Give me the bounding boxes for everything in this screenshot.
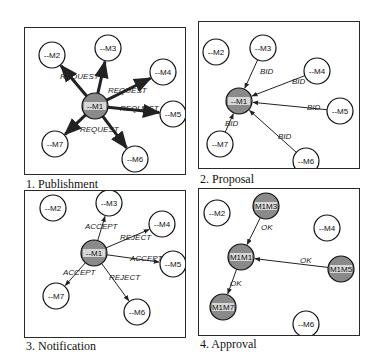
edge-m3-m1-arrow xyxy=(245,60,258,88)
approval-panel: OKOKOKM1M1--M2M1M3--M4M1M5M1M7--M6 xyxy=(198,188,360,336)
edge-label: OK xyxy=(261,223,273,232)
edge-label: ACCEPT xyxy=(62,268,97,277)
node-m7: --M7 xyxy=(207,131,233,157)
edge-label: BID xyxy=(260,67,274,76)
edge-label: REJECT xyxy=(109,273,141,282)
node-label: --M4 xyxy=(319,224,336,233)
edge-label: ACCEPT xyxy=(129,254,164,263)
edge-label: OK xyxy=(230,279,242,288)
node-label: --M3 xyxy=(101,199,118,208)
publishment-panel: REQUESTREQUESTREQUESTREQUEST--M1--M2--M3… xyxy=(24,27,186,175)
edge-label: REJECT xyxy=(120,233,152,242)
diagram-canvas: REQUESTREQUESTREQUESTREQUEST--M1--M2--M3… xyxy=(25,28,185,174)
node-m5: --M5 xyxy=(160,251,185,277)
diagram-canvas: ACCEPTREJECTACCEPTACCEPTREJECT--M1--M2--… xyxy=(25,191,185,337)
node-label: --M4 xyxy=(154,220,171,229)
edge-label: OK xyxy=(300,256,312,265)
edge-label: BID xyxy=(225,119,239,128)
node-label: --M6 xyxy=(127,155,144,164)
node-m1: --M1 xyxy=(81,240,107,266)
node-m2: --M2 xyxy=(39,42,65,68)
node-label: M1M3 xyxy=(255,202,278,211)
proposal-caption: 2. Proposal xyxy=(200,172,254,187)
node-m4: --M4 xyxy=(314,215,340,241)
edge-label: BID xyxy=(278,132,292,141)
node-m2: --M2 xyxy=(203,39,229,65)
edge-label: BID xyxy=(307,103,321,112)
node-m6: --M6 xyxy=(293,148,319,168)
edge-m5-m1-arrow xyxy=(255,259,328,268)
node-m7: M1M7 xyxy=(210,294,236,320)
node-label: --M6 xyxy=(298,157,315,166)
node-m5: M1M5 xyxy=(328,256,354,282)
node-m3: M1M3 xyxy=(253,193,279,219)
edge-label: REQUEST xyxy=(60,72,100,81)
node-m5: --M5 xyxy=(160,101,185,127)
notification-panel: ACCEPTREJECTACCEPTACCEPTREJECT--M1--M2--… xyxy=(24,190,186,338)
node-m4: --M4 xyxy=(304,58,330,84)
node-m2: --M2 xyxy=(40,195,66,221)
node-label: --M1 xyxy=(231,97,248,106)
node-m4: --M4 xyxy=(150,59,176,85)
edge-label: REQUEST xyxy=(108,86,148,95)
edge-m3-m1-arrow xyxy=(247,218,260,245)
node-m7: --M7 xyxy=(43,283,69,309)
node-label: --M5 xyxy=(332,107,349,116)
node-label: --M1 xyxy=(87,102,104,111)
diagram-canvas: BIDBIDBIDBIDBID--M1--M2--M3--M4--M5--M7-… xyxy=(199,22,359,168)
node-label: --M5 xyxy=(165,110,182,119)
node-m2: --M2 xyxy=(204,200,230,226)
node-label: --M3 xyxy=(255,44,272,53)
diagram-canvas: OKOKOKM1M1--M2M1M3--M4M1M5M1M7--M6 xyxy=(199,189,359,335)
node-label: M1M5 xyxy=(330,265,353,274)
node-label: --M6 xyxy=(298,320,315,329)
node-label: --M2 xyxy=(45,204,62,213)
edge-m1-m6-arrow xyxy=(102,264,129,301)
node-m3: --M3 xyxy=(250,35,276,61)
node-label: --M3 xyxy=(100,44,117,53)
node-label: --M7 xyxy=(212,140,229,149)
node-m3: --M3 xyxy=(96,191,122,216)
node-label: --M6 xyxy=(129,308,146,317)
node-label: --M4 xyxy=(309,67,326,76)
edge-label: REQUEST xyxy=(120,104,160,113)
node-m1: --M1 xyxy=(82,93,108,119)
node-label: --M7 xyxy=(48,292,65,301)
edge-label: ACCEPT xyxy=(84,222,119,231)
node-label: --M2 xyxy=(209,209,226,218)
node-m5: --M5 xyxy=(327,98,353,124)
node-label: --M4 xyxy=(155,68,172,77)
node-label: --M2 xyxy=(208,48,225,57)
proposal-panel: BIDBIDBIDBIDBID--M1--M2--M3--M4--M5--M7-… xyxy=(198,21,360,169)
node-label: M1M7 xyxy=(212,303,235,312)
node-label: --M2 xyxy=(44,51,61,60)
node-m4: --M4 xyxy=(149,211,175,237)
node-m7: --M7 xyxy=(42,131,68,157)
node-label: --M1 xyxy=(86,249,103,258)
approval-caption: 4. Approval xyxy=(200,337,257,352)
node-m1: M1M1 xyxy=(228,244,254,270)
node-m6: --M6 xyxy=(122,146,148,172)
node-m6: --M6 xyxy=(124,299,150,325)
edge-label: BID xyxy=(292,77,306,86)
node-m1: --M1 xyxy=(226,88,252,114)
node-m3: --M3 xyxy=(95,35,121,61)
node-label: --M7 xyxy=(47,140,64,149)
node-label: --M5 xyxy=(165,260,182,269)
node-label: M1M1 xyxy=(230,253,253,262)
edge-m1-m3-arrow xyxy=(98,62,105,94)
node-m6: --M6 xyxy=(293,311,319,335)
notification-caption: 3. Notification xyxy=(26,339,96,354)
